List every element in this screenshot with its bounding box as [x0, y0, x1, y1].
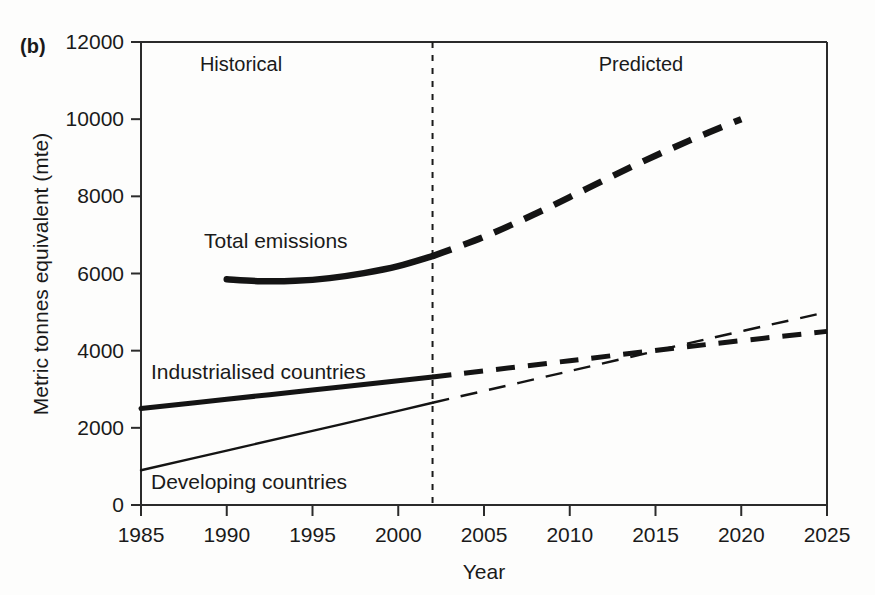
series-label-total-emissions: Total emissions — [204, 229, 348, 252]
y-tick-label: 6000 — [77, 262, 124, 285]
x-tick-label: 2015 — [632, 523, 679, 546]
y-axis-ticks: 020004000600080001000012000 — [66, 30, 141, 516]
x-tick-label: 1985 — [118, 523, 165, 546]
y-tick-label: 12000 — [66, 30, 124, 53]
historical-region-label: Historical — [200, 53, 282, 75]
series-line-total-emissions-predicted — [433, 119, 742, 256]
y-tick-label: 10000 — [66, 107, 124, 130]
series-line-industrialised-countries-predicted — [433, 331, 827, 377]
x-tick-label: 2025 — [804, 523, 851, 546]
chart-canvas: (b) Metric tonnes equivalent (mte) Year … — [0, 0, 875, 595]
y-tick-label: 0 — [112, 493, 124, 516]
panel-label: (b) — [20, 35, 46, 57]
y-axis-title: Metric tonnes equivalent (mte) — [29, 133, 52, 415]
y-tick-label: 8000 — [77, 184, 124, 207]
data-series-group — [141, 119, 827, 470]
x-tick-label: 1990 — [203, 523, 250, 546]
series-label-developing-countries: Developing countries — [151, 470, 347, 493]
x-tick-label: 2020 — [718, 523, 765, 546]
series-label-industrialised-countries: Industrialised countries — [151, 360, 366, 383]
emissions-chart-figure: (b) Metric tonnes equivalent (mte) Year … — [0, 0, 875, 595]
predicted-region-label: Predicted — [599, 53, 684, 75]
series-line-developing-countries-predicted — [433, 312, 827, 403]
plot-frame — [141, 42, 827, 505]
x-tick-label: 2005 — [461, 523, 508, 546]
x-axis-ticks: 198519901995200020052010201520202025 — [118, 505, 851, 546]
x-tick-label: 2000 — [375, 523, 422, 546]
y-tick-label: 2000 — [77, 416, 124, 439]
x-tick-label: 1995 — [289, 523, 336, 546]
x-axis-title: Year — [463, 560, 505, 583]
x-tick-label: 2010 — [546, 523, 593, 546]
series-line-developing-countries-historical — [141, 403, 433, 471]
y-tick-label: 4000 — [77, 339, 124, 362]
series-line-total-emissions-historical — [227, 256, 433, 281]
